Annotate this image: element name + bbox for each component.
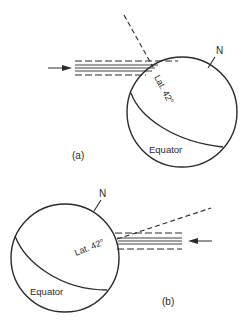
equator-curve-a	[131, 93, 223, 147]
latitude-label-b: Lat. 42°	[73, 237, 106, 258]
north-pole-tick-b	[94, 200, 101, 211]
panel-label-b: (b)	[162, 296, 174, 307]
equator-label-b: Equator	[30, 286, 63, 297]
arrow-left-icon	[188, 238, 212, 244]
globe-b	[11, 204, 119, 312]
panel-a	[48, 15, 237, 167]
sunlight-beam-a	[75, 61, 178, 75]
sunlight-beam-b	[115, 233, 182, 249]
normal-dashed-line-a	[124, 15, 153, 67]
diagram-canvas: N Lat. 42° Equator (a) N Lat. 42° Equato…	[0, 0, 246, 328]
equator-label-a: Equator	[149, 144, 182, 155]
normal-dashed-line-b	[117, 208, 211, 239]
panel-label-a: (a)	[72, 150, 84, 161]
arrow-right-icon	[48, 65, 72, 71]
north-label-b: N	[99, 188, 106, 199]
north-label-a: N	[216, 45, 223, 56]
latitude-label-a: Lat. 42°	[152, 73, 176, 106]
